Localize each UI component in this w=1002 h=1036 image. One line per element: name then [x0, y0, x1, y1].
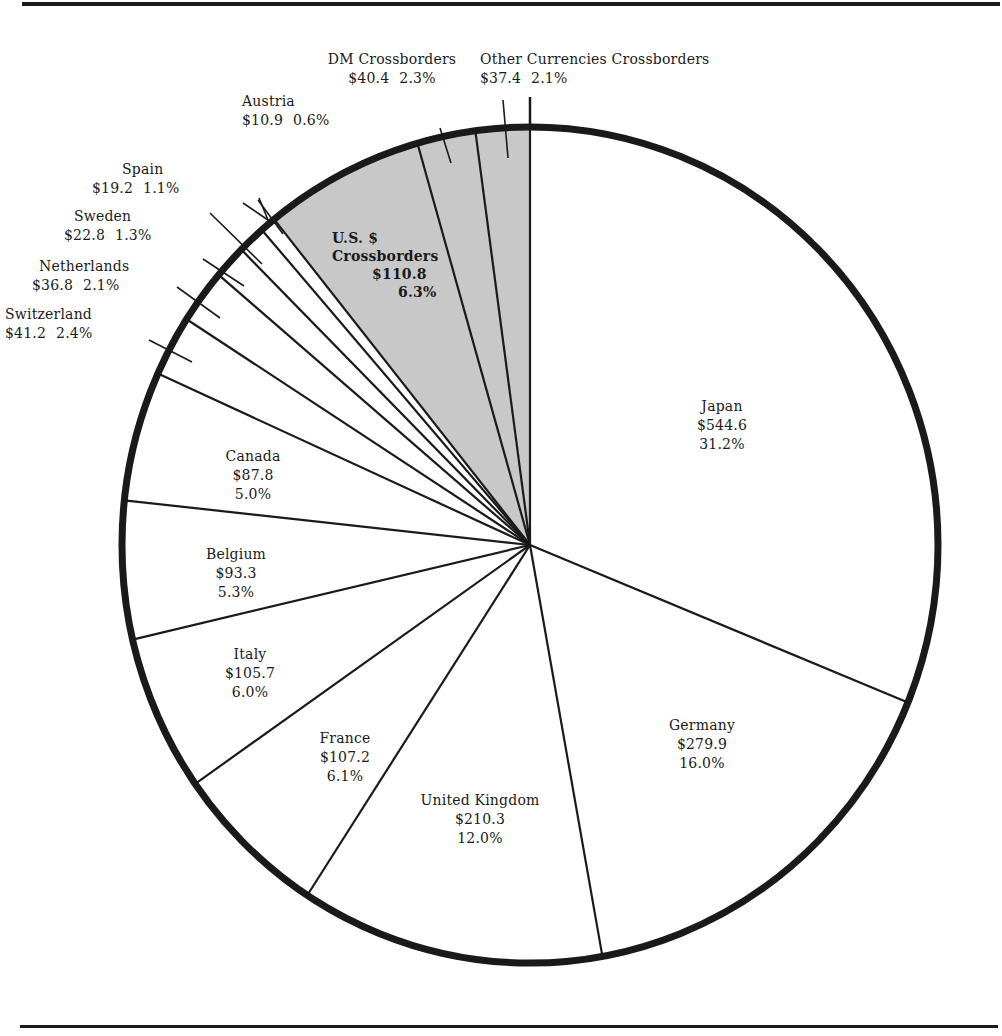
label-us-crossborders: U.S. $ Crossborders $110.8 6.3%	[320, 229, 440, 301]
label-austria: Austria $10.90.6%	[242, 92, 329, 130]
label-united-kingdom: United Kingdom$210.312.0%	[405, 791, 555, 848]
pie-chart	[0, 0, 1002, 1036]
label-spain: Spain $19.21.1%	[92, 160, 179, 198]
label-germany: Germany$279.916.0%	[652, 716, 752, 773]
label-canada: Canada$87.85.0%	[213, 447, 293, 504]
label-belgium: Belgium$93.35.3%	[196, 545, 276, 602]
label-italy: Italy$105.76.0%	[210, 645, 290, 702]
label-sweden: Sweden $22.81.3%	[64, 207, 151, 245]
label-japan: Japan$544.631.2%	[672, 397, 772, 454]
label-france: France$107.26.1%	[305, 729, 385, 786]
label-other-currencies-crossborders: Other Currencies Crossborders $37.42.1%	[480, 50, 709, 88]
label-netherlands: Netherlands $36.82.1%	[32, 257, 129, 295]
label-dm-crossborders: DM Crossborders $40.42.3%	[322, 50, 462, 88]
label-switzerland: Switzerland $41.22.4%	[5, 305, 92, 343]
